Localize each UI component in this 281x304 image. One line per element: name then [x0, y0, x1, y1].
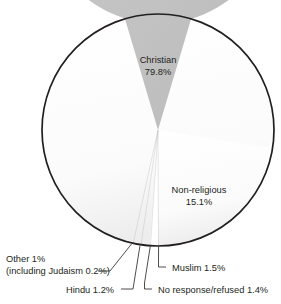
callout-muslim: Muslim 1.5%	[172, 263, 225, 273]
leader-line-muslim	[159, 247, 167, 268]
leader-line-hindu	[121, 246, 140, 290]
callout-hindu: Hindu 1.2%	[66, 285, 114, 295]
slice-label-christian-name: Christian	[140, 55, 177, 65]
slice-label-christian-value: 79.8%	[145, 67, 171, 77]
slice-label-non-religious-name: Non-religious	[172, 185, 227, 195]
leader-line-no-response	[145, 246, 153, 289]
callout-other-line2: (including Judaism 0.2%)	[6, 266, 110, 276]
pie-chart-figure: Christian 79.8% Non-religious 15.1% Othe…	[0, 0, 281, 304]
slice-label-non-religious-value: 15.1%	[186, 197, 212, 207]
pie-chart-svg: Christian 79.8% Non-religious 15.1% Othe…	[0, 0, 281, 304]
callout-no-response: No response/refused 1.4%	[158, 285, 268, 295]
callout-other-line1: Other 1%	[6, 254, 45, 264]
